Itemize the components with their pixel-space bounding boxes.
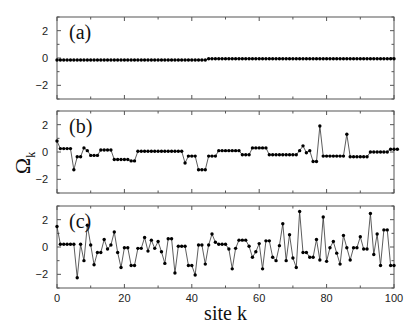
data-point [382,228,385,231]
data-point [146,249,149,252]
data-point [251,256,254,259]
data-point [258,57,261,60]
data-point [204,168,207,171]
data-point [69,243,72,246]
data-point [220,149,223,152]
data-point [231,57,234,60]
data-point [79,58,82,61]
data-point [227,247,230,250]
data-point [96,251,99,254]
data-point [274,153,277,156]
data-point [254,146,257,149]
data-point [140,58,143,61]
data-point [123,158,126,161]
data-point [76,58,79,61]
data-point [379,57,382,60]
data-point [207,154,210,157]
data-point [183,245,186,248]
data-point [62,243,65,246]
data-point [318,258,321,261]
data-point [254,250,257,253]
data-point [311,160,314,163]
data-point [65,243,68,246]
data-point [197,168,200,171]
data-point [305,57,308,60]
data-point [106,58,109,61]
data-point [89,58,92,61]
y-tick-label: −2 [35,173,48,185]
data-point [308,256,311,259]
data-point [79,243,82,246]
data-point [264,57,267,60]
data-point [348,57,351,60]
data-point [156,240,159,243]
data-point [187,154,190,157]
data-point [59,58,62,61]
data-point [72,58,75,61]
data-point [247,57,250,60]
data-point [86,58,89,61]
data-point [332,154,335,157]
data-point [113,230,116,233]
data-point [365,155,368,158]
data-point [129,159,132,162]
data-point [99,148,102,151]
data-point [271,57,274,60]
data-point [244,238,247,241]
data-point [301,251,304,254]
y-tick-label: −2 [35,268,48,280]
data-point [322,215,325,218]
data-point [271,153,274,156]
data-point [342,154,345,157]
data-point [123,246,126,249]
data-point [102,148,105,151]
data-point [119,58,122,61]
data-point [375,232,378,235]
data-point [298,57,301,60]
data-point [362,57,365,60]
data-point [328,154,331,157]
data-point [55,58,58,61]
data-point [328,246,331,249]
data-point [291,256,294,259]
x-tick-label: 20 [118,292,130,304]
data-point [237,149,240,152]
data-point [170,237,173,240]
data-point [237,238,240,241]
data-point [332,57,335,60]
data-point [180,58,183,61]
y-tick-label: 0 [42,241,48,253]
data-point [375,57,378,60]
x-tick-label: 60 [253,292,265,304]
data-point [244,57,247,60]
data-point [369,57,372,60]
data-point [264,239,267,242]
data-point [89,154,92,157]
data-point [59,147,62,150]
data-point [325,154,328,157]
data-point [170,58,173,61]
data-point [126,158,129,161]
data-point [133,264,136,267]
data-point [92,58,95,61]
y-axis-label: Ωk [10,152,38,174]
panel-frame [57,206,394,288]
data-point [156,58,159,61]
data-point [291,153,294,156]
data-point [210,232,213,235]
data-point [116,158,119,161]
data-point [220,57,223,60]
data-point [116,58,119,61]
data-point [268,239,271,242]
data-point [160,58,163,61]
data-point [92,154,95,157]
data-point [102,238,105,241]
data-point [342,57,345,60]
data-point [204,262,207,265]
data-point [160,250,163,253]
data-point [305,251,308,254]
data-point [264,146,267,149]
data-point [214,154,217,157]
data-point [251,146,254,149]
data-point [268,57,271,60]
